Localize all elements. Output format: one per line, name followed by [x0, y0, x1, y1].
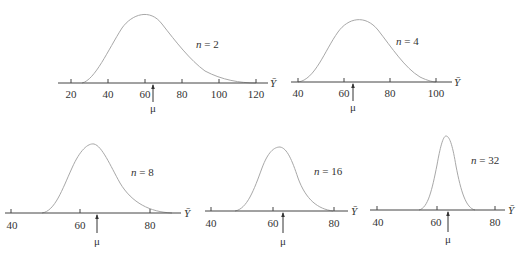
- mu-label: μ: [445, 233, 451, 245]
- y-bar-axis-label: Ȳ: [454, 76, 462, 88]
- sample-size-label: n = 2: [196, 38, 219, 50]
- figure-canvas: 20 40 60 80 100 120 Ȳ μ n = 2 40 60 80 1…: [0, 0, 522, 257]
- panel-n8: 40 60 80 Ȳ μ n = 8: [5, 144, 192, 247]
- x-ticks: [377, 206, 495, 210]
- tick-label: 80: [177, 88, 189, 100]
- tick-label: 60: [75, 219, 87, 231]
- tick-label: 80: [490, 216, 502, 228]
- tick-label: 80: [385, 87, 397, 99]
- density-curve: [42, 144, 172, 213]
- tick-label: 120: [248, 88, 265, 100]
- x-ticks: [298, 78, 436, 82]
- sample-size-label: n = 8: [131, 166, 154, 178]
- mu-arrowhead-icon: [95, 214, 99, 219]
- density-curve: [82, 14, 256, 83]
- y-bar-axis-label: Ȳ: [184, 207, 192, 219]
- density-curve: [235, 147, 333, 211]
- tick-label: 40: [206, 217, 218, 229]
- panel-n4: 40 60 80 100 Ȳ μ n = 4: [291, 20, 462, 113]
- density-curve: [419, 136, 475, 210]
- sample-size-label: n = 16: [314, 165, 343, 177]
- x-ticks: [11, 209, 150, 213]
- tick-label: 100: [428, 87, 445, 99]
- tick-label: 20: [66, 88, 78, 100]
- tick-label: 60: [339, 87, 351, 99]
- tick-label: 40: [373, 216, 385, 228]
- tick-label: 100: [211, 88, 228, 100]
- sampling-distribution-figure: 20 40 60 80 100 120 Ȳ μ n = 2 40 60 80 1…: [0, 0, 522, 257]
- mu-arrowhead-icon: [281, 212, 285, 217]
- tick-label: 40: [293, 87, 305, 99]
- sample-size-label: n = 4: [396, 35, 419, 47]
- tick-label: 60: [268, 217, 280, 229]
- tick-label: 80: [329, 217, 341, 229]
- mu-arrowhead-icon: [351, 83, 355, 88]
- x-ticks: [211, 207, 334, 211]
- tick-label: 80: [145, 219, 157, 231]
- panel-n32: 40 60 80 Ȳ μ n = 32: [370, 136, 516, 245]
- tick-label: 60: [431, 216, 443, 228]
- mu-arrowhead-icon: [151, 84, 155, 89]
- mu-label: μ: [350, 101, 356, 113]
- tick-label: 40: [103, 88, 115, 100]
- mu-label: μ: [280, 235, 286, 247]
- tick-label: 60: [140, 88, 152, 100]
- density-curve: [298, 20, 436, 82]
- y-bar-axis-label: Ȳ: [270, 77, 278, 89]
- panel-n16: 40 60 80 Ȳ μ n = 16: [205, 147, 359, 247]
- mu-label: μ: [150, 102, 156, 114]
- mu-arrowhead-icon: [446, 211, 450, 216]
- y-bar-axis-label: Ȳ: [508, 204, 516, 216]
- sample-size-label: n = 32: [471, 154, 499, 166]
- tick-label: 40: [7, 219, 19, 231]
- panel-n2: 20 40 60 80 100 120 Ȳ μ n = 2: [58, 14, 278, 114]
- y-bar-axis-label: Ȳ: [351, 205, 359, 217]
- mu-label: μ: [94, 235, 100, 247]
